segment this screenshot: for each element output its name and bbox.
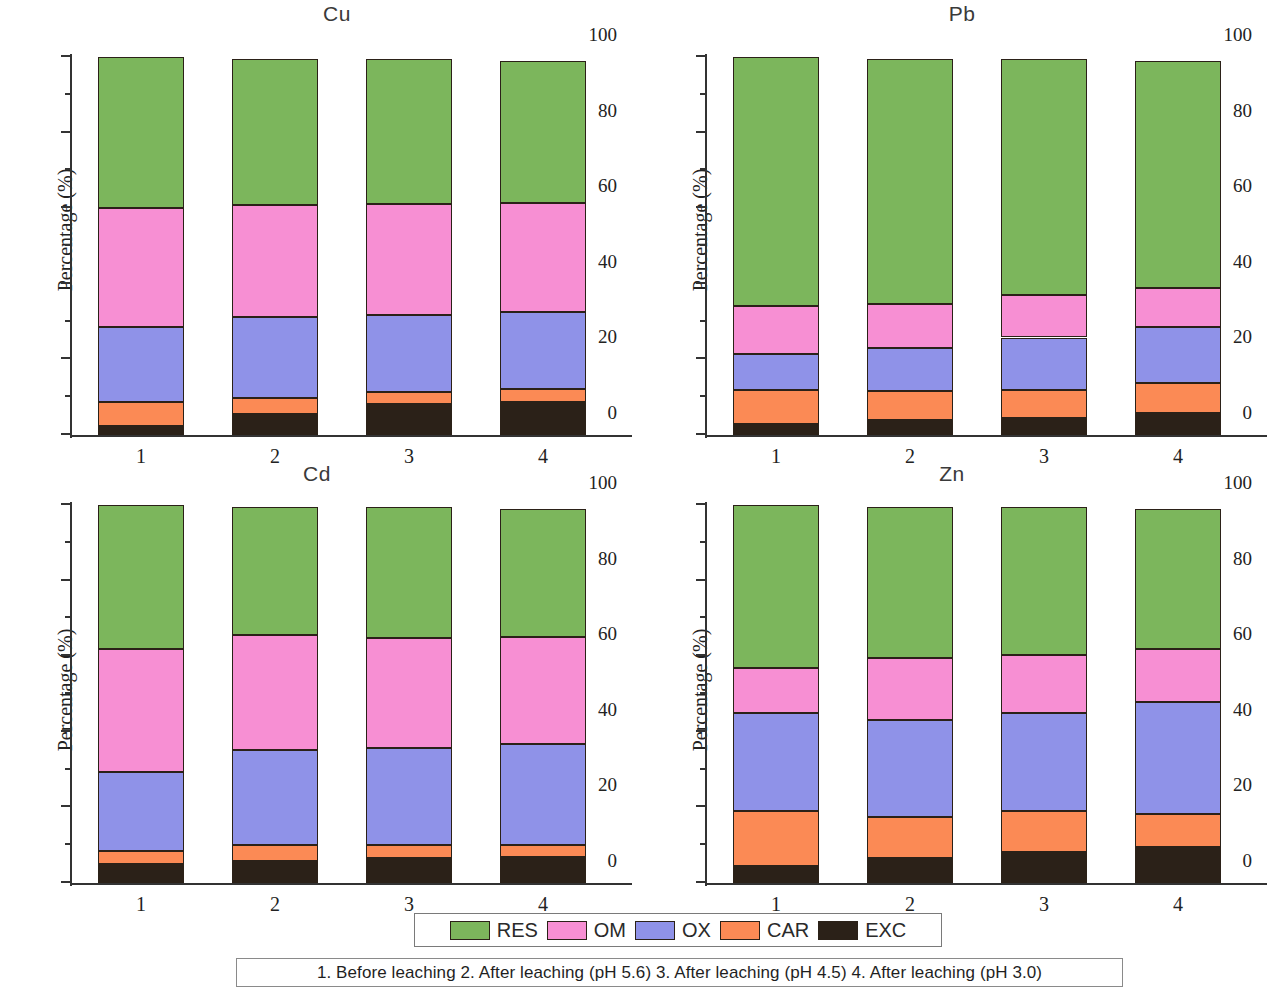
y-tick-60 bbox=[696, 654, 707, 656]
y-tick-0 bbox=[696, 881, 707, 883]
bar-segment-res bbox=[232, 59, 318, 206]
bar-segment-res bbox=[98, 505, 184, 649]
legend-item-ox: OX bbox=[635, 919, 711, 942]
bar-segment-om bbox=[98, 208, 184, 327]
bar-segment-exc bbox=[1001, 418, 1087, 435]
stacked-bar bbox=[232, 59, 318, 435]
y-tick-label-100: 100 bbox=[1224, 472, 1253, 494]
y-tick-label-60: 60 bbox=[1233, 623, 1252, 645]
stacked-bar bbox=[867, 507, 953, 883]
bar-segment-car bbox=[232, 398, 318, 414]
legend-swatch-om bbox=[547, 921, 587, 940]
y-tick-80 bbox=[61, 579, 72, 581]
legend-label-ox: OX bbox=[682, 919, 711, 942]
stacked-bar bbox=[733, 57, 819, 435]
y-tick-label-40: 40 bbox=[598, 250, 617, 272]
bar-segment-res bbox=[1001, 507, 1087, 655]
stacked-bar bbox=[366, 59, 452, 435]
y-tick-20 bbox=[61, 805, 72, 807]
bar-segment-exc bbox=[366, 858, 452, 883]
panel-pb: Pb Percentage (%) 0204060801001234 bbox=[635, 0, 1269, 460]
bar-segment-res bbox=[733, 505, 819, 668]
bar-segment-res bbox=[867, 507, 953, 659]
bar-segment-exc bbox=[1135, 413, 1221, 435]
x-tick-label-1: 1 bbox=[98, 893, 184, 916]
y-axis-line-cu bbox=[70, 54, 72, 438]
y-tick-100 bbox=[61, 55, 72, 57]
bar-segment-exc bbox=[1001, 852, 1087, 883]
bar-segment-res bbox=[232, 507, 318, 636]
stacked-bar bbox=[366, 507, 452, 883]
bar-segment-car bbox=[733, 811, 819, 866]
legend-item-om: OM bbox=[547, 919, 626, 942]
bar-segment-car bbox=[500, 845, 586, 857]
y-tick-40 bbox=[696, 282, 707, 284]
y-tick-label-0: 0 bbox=[608, 850, 618, 872]
bar-segment-res bbox=[867, 59, 953, 304]
stacked-bar bbox=[733, 505, 819, 883]
bar-segment-exc bbox=[500, 402, 586, 435]
legend-swatch-exc bbox=[818, 921, 858, 940]
y-tick-0 bbox=[61, 881, 72, 883]
bar-segment-ox bbox=[500, 744, 586, 845]
figure-panel-grid: Cu Percentage (%) 0204060801001234 Pb Pe… bbox=[0, 0, 1269, 920]
bar-segment-exc bbox=[867, 858, 953, 883]
y-tick-label-80: 80 bbox=[598, 99, 617, 121]
y-tick-70 bbox=[65, 168, 72, 170]
bar-segment-res bbox=[500, 509, 586, 638]
plot-area-pb: 0204060801001234 bbox=[707, 57, 1267, 435]
x-axis-line-zn bbox=[705, 883, 1267, 885]
bar-segment-res bbox=[1001, 59, 1087, 295]
y-tick-10 bbox=[65, 843, 72, 845]
bar-segment-ox bbox=[366, 748, 452, 846]
stacked-bar bbox=[500, 509, 586, 883]
y-tick-label-60: 60 bbox=[598, 175, 617, 197]
bar-segment-exc bbox=[500, 857, 586, 883]
y-axis-line-cd bbox=[70, 502, 72, 886]
y-tick-50 bbox=[700, 692, 707, 694]
y-tick-30 bbox=[65, 768, 72, 770]
y-tick-label-20: 20 bbox=[1233, 774, 1252, 796]
bar-segment-car bbox=[232, 845, 318, 861]
bar-segment-car bbox=[366, 392, 452, 404]
panel-title-cu: Cu bbox=[0, 2, 634, 26]
bar-segment-car bbox=[867, 817, 953, 859]
bar-segment-om bbox=[1001, 295, 1087, 337]
y-tick-80 bbox=[61, 131, 72, 133]
y-tick-label-20: 20 bbox=[1233, 326, 1252, 348]
stacked-bar bbox=[232, 507, 318, 883]
legend-label-om: OM bbox=[594, 919, 626, 942]
y-tick-label-100: 100 bbox=[1224, 24, 1253, 46]
panel-title-pb: Pb bbox=[635, 2, 1269, 26]
y-tick-50 bbox=[65, 244, 72, 246]
bar-segment-om bbox=[98, 649, 184, 771]
x-axis-line-cu bbox=[70, 435, 632, 437]
y-tick-0 bbox=[61, 433, 72, 435]
y-tick-0 bbox=[696, 433, 707, 435]
bar-segment-res bbox=[98, 57, 184, 208]
bar-segment-car bbox=[366, 845, 452, 858]
bar-segment-car bbox=[98, 851, 184, 864]
bar-segment-res bbox=[500, 61, 586, 203]
bar-segment-car bbox=[500, 389, 586, 402]
bar-segment-om bbox=[1001, 655, 1087, 713]
x-tick-label-3: 3 bbox=[1001, 893, 1087, 916]
y-tick-10 bbox=[65, 395, 72, 397]
y-tick-80 bbox=[696, 579, 707, 581]
y-tick-label-40: 40 bbox=[598, 698, 617, 720]
y-tick-label-60: 60 bbox=[1233, 175, 1252, 197]
bar-segment-car bbox=[98, 402, 184, 426]
bar-segment-om bbox=[366, 204, 452, 315]
x-tick-label-4: 4 bbox=[1135, 893, 1221, 916]
stacked-bar bbox=[500, 61, 586, 435]
bar-segment-ox bbox=[98, 772, 184, 851]
panel-zn: Zn Percentage (%) 0204060801001234 bbox=[635, 460, 1269, 920]
chart-legend: RESOMOXCAREXC bbox=[414, 913, 942, 947]
y-tick-80 bbox=[696, 131, 707, 133]
legend-item-car: CAR bbox=[720, 919, 809, 942]
bar-segment-res bbox=[1135, 509, 1221, 649]
bar-segment-car bbox=[733, 390, 819, 424]
legend-swatch-car bbox=[720, 921, 760, 940]
bar-segment-car bbox=[1001, 811, 1087, 851]
bar-segment-om bbox=[1135, 649, 1221, 702]
